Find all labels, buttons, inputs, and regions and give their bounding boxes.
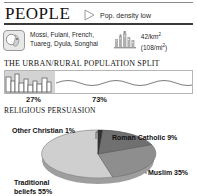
religion-heading: RELIGIOUS PERSUASION (0, 106, 197, 115)
pie-label-roman-catholic: Roman Catholic 9% (112, 134, 177, 143)
header-row: PEOPLE Pop. density low (4, 3, 193, 23)
pie-label-traditional-line1: Traditional (14, 179, 52, 188)
rolling-hills-icon (56, 71, 194, 93)
urban-rural-heading: THE URBAN/RURAL POPULATION SPLIT (0, 56, 197, 70)
pop-density-flag: Pop. density low (84, 9, 192, 23)
header-rule-bottom (4, 23, 193, 25)
religion-section: Other Christian 1% Roman Catholic 9% Mus… (0, 116, 197, 195)
facts-row: Mossi, Fulani, French, Tuareg, Dyula, So… (0, 25, 197, 56)
ethnic-groups-line2: Tuareg, Dyula, Songhai (30, 40, 98, 49)
religion-pie-chart: Other Christian 1% Roman Catholic 9% Mus… (0, 116, 197, 195)
urban-rural-percent-row: 27% 73% (4, 94, 193, 106)
page-header: PEOPLE Pop. density low (0, 2, 197, 25)
ethnic-groups-fact: Mossi, Fulani, French, Tuareg, Dyula, So… (3, 30, 114, 51)
density-per-mi: (108/mi2) (141, 42, 167, 53)
pie-label-other-christian: Other Christian 1% (12, 127, 75, 136)
rural-percent: 73% (92, 95, 107, 104)
population-density-fact: 42/km2 (108/mi2) (114, 30, 193, 52)
pie-label-traditional-line2: beliefs 55% (14, 188, 52, 196)
urban-rural-split: 27% 73% (4, 70, 193, 106)
city-skyline-icon (5, 71, 58, 93)
pie-label-traditional: Traditional beliefs 55% (14, 179, 52, 195)
pie-label-muslim: Muslim 35% (148, 169, 188, 178)
ethnic-groups-text: Mossi, Fulani, French, Tuareg, Dyula, So… (30, 30, 98, 48)
page-title: PEOPLE (5, 4, 70, 23)
city-buildings-icon (114, 30, 136, 49)
triangle-right-icon (84, 9, 95, 21)
density-per-km: 42/km2 (141, 31, 167, 42)
urban-percent: 27% (26, 95, 41, 104)
ethnic-groups-line1: Mossi, Fulani, French, (30, 31, 98, 40)
population-density-text: 42/km2 (108/mi2) (141, 30, 167, 52)
rural-segment (56, 71, 193, 93)
head-profile-icon (3, 30, 25, 51)
urban-segment (5, 71, 55, 93)
urban-rural-bar (4, 70, 193, 94)
pop-density-flag-label: Pop. density low (100, 12, 151, 19)
